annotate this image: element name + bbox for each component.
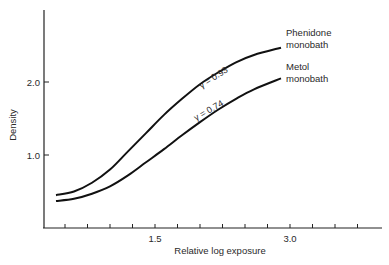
y-ticks [44, 82, 49, 155]
y-tick-labels: 1.02.0 [27, 77, 40, 161]
series-label-phenidone-monobath: Phenidone [286, 27, 331, 38]
axes [43, 10, 382, 228]
x-axis-label: Relative log exposure [174, 245, 265, 256]
y-axis-label: Density [7, 109, 18, 141]
series-label-phenidone-monobath: monobath [286, 39, 328, 50]
y-tick-label: 2.0 [27, 77, 40, 88]
series-label-metol-monobath: monobath [286, 73, 328, 84]
curve-metol-monobath [56, 78, 281, 201]
x-tick-label: 3.0 [283, 233, 296, 244]
x-tick-label: 1.5 [148, 233, 161, 244]
gamma-annotation-metol-monobath: γ = 0.74 [192, 98, 225, 123]
curve-phenidone-monobath [56, 48, 281, 195]
gamma-annotation-phenidone-monobath: γ = 0.93 [197, 64, 230, 90]
x-tick-labels: 1.53.0 [148, 233, 296, 244]
y-tick-label: 1.0 [27, 150, 40, 161]
series-label-metol-monobath: Metol [286, 61, 309, 72]
characteristic-curve-chart: 1.53.0 1.02.0 Relative log exposure Dens… [0, 0, 389, 265]
series-group: γ = 0.93Phenidonemonobathγ = 0.74Metolmo… [56, 27, 331, 201]
